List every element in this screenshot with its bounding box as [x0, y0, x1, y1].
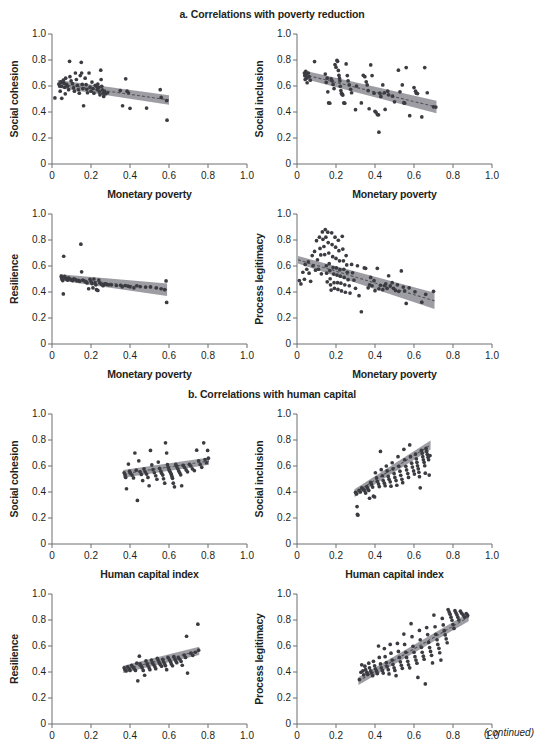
- data-point: [384, 464, 388, 468]
- plot-area-a1: [52, 34, 249, 166]
- data-point: [311, 264, 315, 268]
- y-tick-label: 0: [263, 718, 291, 729]
- data-point: [354, 287, 358, 291]
- x-tick-label: 0.8: [438, 350, 468, 361]
- data-point: [401, 481, 405, 485]
- data-point: [392, 472, 396, 476]
- data-point: [165, 301, 169, 305]
- data-point: [76, 88, 80, 92]
- data-point: [96, 82, 100, 86]
- data-point: [407, 286, 411, 290]
- data-point: [171, 664, 175, 668]
- y-tick-label: 0.2: [263, 692, 291, 703]
- confidence-band: [298, 256, 435, 309]
- data-point: [132, 476, 136, 480]
- data-point: [355, 84, 359, 88]
- data-point: [133, 451, 137, 455]
- data-point: [400, 83, 404, 87]
- x-tick-label: 0: [282, 350, 312, 361]
- x-tick-label: 0: [282, 170, 312, 181]
- data-point: [179, 473, 183, 477]
- data-point: [405, 656, 409, 660]
- data-point: [297, 279, 301, 283]
- data-point: [364, 80, 368, 84]
- data-point: [381, 83, 385, 87]
- x-tick-label: 0.8: [193, 730, 223, 741]
- y-tick-label: 0.6: [263, 260, 291, 271]
- data-point: [334, 257, 338, 261]
- data-point: [53, 96, 57, 100]
- data-point: [319, 253, 323, 257]
- data-point: [134, 468, 138, 472]
- y-tick-label: 1.0: [263, 588, 291, 599]
- y-tick-label: 0.6: [263, 460, 291, 471]
- data-point: [145, 106, 149, 110]
- data-point: [417, 470, 421, 474]
- data-point: [457, 618, 461, 622]
- data-point: [324, 81, 328, 85]
- data-point: [403, 458, 407, 462]
- data-point: [164, 441, 168, 445]
- data-point: [420, 451, 424, 455]
- data-point: [377, 644, 381, 648]
- data-point: [449, 615, 453, 619]
- data-point: [203, 458, 207, 462]
- data-point: [321, 230, 325, 234]
- data-point: [196, 622, 200, 626]
- data-point: [148, 668, 152, 672]
- y-tick-label: 0.6: [18, 460, 46, 471]
- data-point: [372, 91, 376, 95]
- data-point: [80, 83, 84, 87]
- data-point: [77, 91, 81, 95]
- data-point: [329, 283, 333, 287]
- data-point: [370, 284, 374, 288]
- data-point: [391, 663, 395, 667]
- data-point: [409, 622, 413, 626]
- continued-note: (continued): [484, 727, 534, 738]
- data-point: [118, 89, 122, 93]
- y-tick-label: 0.8: [263, 234, 291, 245]
- data-point: [76, 84, 80, 88]
- data-point: [443, 633, 447, 637]
- x-tick-label: 0.6: [399, 550, 429, 561]
- data-point: [379, 283, 383, 287]
- data-point: [397, 650, 401, 654]
- scatter-chart-a2: 00.20.40.60.81.01.00.80.60.40.20Monetary…: [297, 34, 492, 164]
- data-point: [115, 284, 119, 288]
- data-point: [414, 452, 418, 456]
- data-point: [416, 467, 420, 471]
- y-tick-label: 0.8: [18, 234, 46, 245]
- data-point: [60, 84, 64, 88]
- data-point: [360, 310, 364, 314]
- data-point: [372, 659, 376, 663]
- data-point: [388, 284, 392, 288]
- data-point: [405, 468, 409, 472]
- data-point: [420, 645, 424, 649]
- data-point: [332, 272, 336, 276]
- section-b-title: b. Correlations with human capital: [0, 388, 544, 400]
- data-point: [347, 284, 351, 288]
- data-point: [79, 60, 83, 64]
- scatter-chart-b1: 00.20.40.60.81.01.00.80.60.40.20Human ca…: [52, 414, 247, 544]
- data-point: [403, 643, 407, 647]
- x-tick-label: 0: [37, 350, 67, 361]
- data-point: [135, 661, 139, 665]
- y-tick-label: 0.2: [263, 132, 291, 143]
- data-point: [71, 82, 75, 86]
- x-tick-label: 0.6: [399, 170, 429, 181]
- y-axis-label: Social inclusion: [253, 34, 265, 164]
- y-tick-label: 1.0: [263, 208, 291, 219]
- data-point: [124, 77, 128, 81]
- data-point: [364, 266, 368, 270]
- data-point: [180, 484, 184, 488]
- data-point: [138, 654, 142, 658]
- data-point: [202, 441, 206, 445]
- y-axis-label: Process legitimacy: [253, 594, 265, 724]
- y-tick-label: 1.0: [18, 208, 46, 219]
- plot-area-b4: [297, 594, 494, 726]
- data-point: [390, 658, 394, 662]
- data-point: [313, 250, 317, 254]
- x-tick-label: 0.2: [321, 170, 351, 181]
- data-point: [141, 669, 145, 673]
- data-point: [367, 661, 371, 665]
